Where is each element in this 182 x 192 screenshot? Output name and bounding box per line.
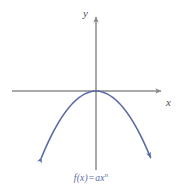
y-axis-label: y [83,8,88,19]
caption-function-name: f(x) [74,173,88,183]
function-caption: f(x)=axn [0,173,182,184]
parabola-figure: y x f(x)=axn [0,0,182,192]
x-axis-label: x [166,97,171,108]
caption-expression-exponent: n [105,171,108,178]
caption-expression-base: ax [95,173,104,183]
coordinate-plot [0,0,182,192]
